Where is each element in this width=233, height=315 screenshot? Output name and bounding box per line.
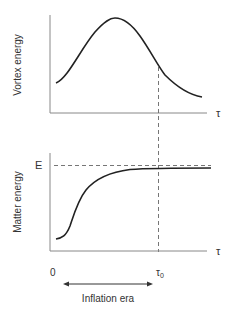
matter-energy-curve <box>56 168 211 239</box>
origin-label: 0 <box>50 267 56 278</box>
inflation-era-arrow <box>63 282 153 287</box>
top-x-label: τ <box>216 107 221 119</box>
diagram-canvas: τ Vortex energy E τ Matter energy 0 τ0 I… <box>0 0 233 315</box>
bottom-panel: E τ Matter energy <box>12 153 221 257</box>
tau0-label: τ0 <box>156 267 164 279</box>
vortex-energy-curve <box>56 18 202 97</box>
top-y-label: Vortex energy <box>12 34 23 96</box>
bottom-x-label: τ <box>216 245 221 257</box>
e-level-label: E <box>35 159 42 171</box>
inflation-era-label: Inflation era <box>82 293 135 304</box>
top-panel: τ Vortex energy <box>12 15 221 119</box>
bottom-y-label: Matter energy <box>12 171 23 233</box>
